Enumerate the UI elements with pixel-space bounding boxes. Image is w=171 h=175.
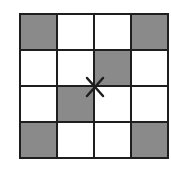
grid-cell-empty <box>21 87 56 121</box>
grid-cell-empty <box>58 15 93 49</box>
grid-cell-empty <box>58 123 93 157</box>
grid-cell-empty <box>132 51 167 85</box>
grid-cell-empty <box>95 15 130 49</box>
grid-cell-shaded <box>132 123 167 157</box>
x-marker-icon <box>85 76 105 98</box>
grid-cell-empty <box>95 123 130 157</box>
grid-cell-shaded <box>21 15 56 49</box>
grid-cell-empty <box>21 51 56 85</box>
grid-cell-shaded <box>132 15 167 49</box>
grid-cell-shaded <box>21 123 56 157</box>
grid-cell-empty <box>132 87 167 121</box>
